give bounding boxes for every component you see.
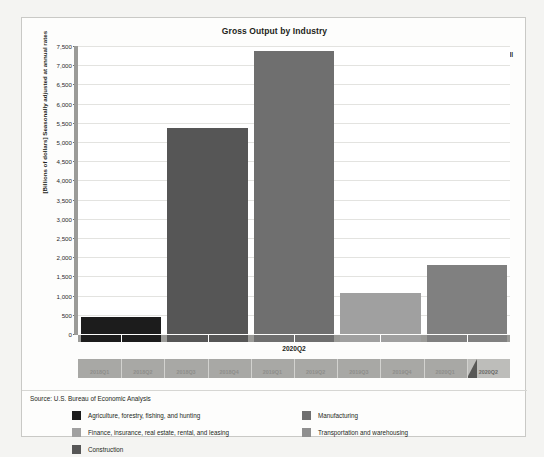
y-axis-tick-label: 4,500 bbox=[57, 158, 72, 165]
x-axis-tick-mark bbox=[121, 335, 122, 342]
selected-period-label: 2020Q2 bbox=[78, 345, 510, 352]
slider-label[interactable]: 2018Q1 bbox=[90, 369, 109, 375]
slider-label[interactable]: 2019Q1 bbox=[263, 369, 282, 375]
chart-screenshot: Gross Output by Industry Show all [Billi… bbox=[0, 0, 544, 457]
legend-column-2: ManufacturingTransportation and warehous… bbox=[302, 407, 408, 441]
y-axis-tick-label: 3,000 bbox=[57, 215, 72, 222]
legend-item[interactable]: Manufacturing bbox=[302, 407, 408, 424]
legend-swatch-icon bbox=[72, 445, 81, 454]
slider-label[interactable]: 2019Q2 bbox=[306, 369, 325, 375]
x-axis-tick-mark bbox=[380, 335, 381, 342]
legend-label: Finance, insurance, real estate, rental,… bbox=[88, 429, 229, 436]
source-note: Source: U.S. Bureau of Economic Analysis bbox=[30, 395, 151, 402]
x-axis-tick-mark bbox=[294, 335, 295, 342]
y-axis-tick-label: 0 bbox=[69, 331, 72, 338]
bar-series bbox=[78, 46, 510, 334]
plot-background bbox=[78, 46, 510, 334]
legend-label: Construction bbox=[88, 446, 123, 453]
y-axis-tick-labels: 7,5007,0006,5006,0005,5005,0004,5004,000… bbox=[22, 46, 72, 335]
slider-tick bbox=[467, 359, 468, 378]
slider-tick bbox=[424, 359, 425, 378]
slider-label[interactable]: 2019Q3 bbox=[349, 369, 368, 375]
y-axis-tick-label: 7,000 bbox=[57, 62, 72, 69]
y-axis-tick-label: 6,000 bbox=[57, 100, 72, 107]
bar[interactable] bbox=[167, 128, 247, 334]
legend-label: Agriculture, forestry, fishing, and hunt… bbox=[88, 412, 200, 419]
chart-card: Gross Output by Industry Show all [Billi… bbox=[21, 17, 526, 437]
bar[interactable] bbox=[427, 265, 507, 334]
slider-tick bbox=[337, 359, 338, 378]
x-axis-tick-mark bbox=[467, 335, 468, 342]
y-axis-tick-label: 2,500 bbox=[57, 235, 72, 242]
bar[interactable] bbox=[254, 51, 334, 334]
slider-label[interactable]: 2020Q1 bbox=[436, 369, 455, 375]
legend-column-1: Agriculture, forestry, fishing, and hunt… bbox=[72, 407, 229, 457]
y-axis-tick-label: 2,000 bbox=[57, 254, 72, 261]
legend-swatch-icon bbox=[72, 411, 81, 420]
legend-swatch-icon bbox=[72, 428, 81, 437]
slider-tick bbox=[294, 359, 295, 378]
slider-label[interactable]: 2018Q4 bbox=[220, 369, 239, 375]
y-axis-tick-label: 3,500 bbox=[57, 196, 72, 203]
slider-tick bbox=[208, 359, 209, 378]
x-axis-strip bbox=[78, 335, 510, 342]
y-axis-tick-label: 1,000 bbox=[57, 292, 72, 299]
legend-item[interactable]: Finance, insurance, real estate, rental,… bbox=[72, 424, 229, 441]
legend-item[interactable]: Construction bbox=[72, 441, 229, 457]
legend-swatch-icon bbox=[302, 428, 311, 437]
slider-tick bbox=[380, 359, 381, 378]
legend-label: Transportation and warehousing bbox=[318, 429, 408, 436]
slider-tick bbox=[121, 359, 122, 378]
page-title: Gross Output by Industry bbox=[22, 26, 527, 36]
legend-label: Manufacturing bbox=[318, 412, 358, 419]
slider-label[interactable]: 2018Q2 bbox=[133, 369, 152, 375]
slider-label[interactable]: 2019Q4 bbox=[392, 369, 411, 375]
slider-label[interactable]: 2020Q2 bbox=[479, 369, 498, 375]
y-axis-tick-label: 4,000 bbox=[57, 177, 72, 184]
slider-label[interactable]: 2018Q3 bbox=[176, 369, 195, 375]
slider-handle[interactable] bbox=[467, 359, 477, 378]
legend-item[interactable]: Agriculture, forestry, fishing, and hunt… bbox=[72, 407, 229, 424]
y-axis-tick-label: 1,500 bbox=[57, 273, 72, 280]
slider-tick bbox=[251, 359, 252, 378]
legend-swatch-icon bbox=[302, 411, 311, 420]
bar[interactable] bbox=[81, 317, 161, 334]
range-slider[interactable]: 2018Q12018Q22018Q32018Q42019Q12019Q22019… bbox=[78, 359, 510, 378]
slider-tick bbox=[164, 359, 165, 378]
bar[interactable] bbox=[340, 293, 420, 334]
y-axis-tick-label: 6,500 bbox=[57, 81, 72, 88]
x-axis-tick-mark bbox=[208, 335, 209, 342]
plot-area bbox=[78, 46, 510, 334]
y-axis-tick-label: 500 bbox=[62, 311, 72, 318]
legend-item[interactable]: Transportation and warehousing bbox=[302, 424, 408, 441]
chart-footer: Source: U.S. Bureau of Economic Analysis… bbox=[22, 390, 527, 437]
y-axis-tick-label: 5,000 bbox=[57, 139, 72, 146]
y-axis-tick-label: 5,500 bbox=[57, 119, 72, 126]
y-axis-tick-label: 7,500 bbox=[57, 43, 72, 50]
